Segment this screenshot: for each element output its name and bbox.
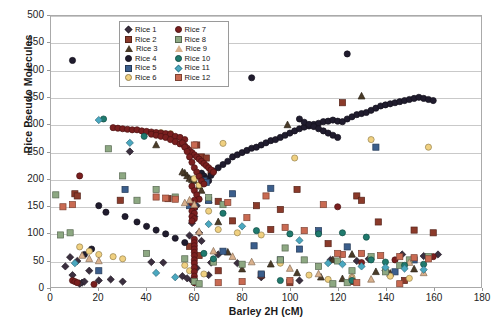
data-point (122, 186, 128, 192)
data-point (215, 280, 221, 286)
scatter-chart: Rice Pseudo Molecules 050100150200250300… (0, 0, 502, 327)
legend-label: Rice 7 (185, 26, 207, 34)
data-point (120, 256, 126, 262)
legend-item-rice-9[interactable]: Rice 9 (175, 45, 225, 53)
data-point (425, 256, 431, 262)
data-point (119, 278, 126, 285)
legend-marker-square-icon (175, 74, 182, 81)
data-point (315, 263, 321, 269)
data-point (96, 268, 102, 274)
data-point (60, 204, 66, 210)
legend-item-rice-11[interactable]: Rice 11 (175, 64, 225, 72)
data-point (330, 281, 336, 287)
x-tick-mark (434, 288, 435, 291)
legend-item-rice-3[interactable]: Rice 3 (125, 45, 175, 53)
data-point (306, 272, 312, 278)
data-point (320, 202, 326, 208)
x-tick-label: 60 (174, 292, 214, 303)
legend-row: Rice 5Rice 11 (125, 63, 224, 73)
data-point (358, 92, 365, 99)
legend-row: Rice 4Rice 10 (125, 54, 224, 64)
data-point (182, 262, 188, 268)
data-point (411, 255, 417, 261)
legend-label: Rice 3 (136, 45, 158, 53)
data-point (225, 199, 231, 205)
x-tick-label: 40 (126, 292, 166, 303)
data-point (294, 269, 301, 276)
data-point (430, 97, 436, 103)
data-point (372, 268, 379, 275)
x-tick-mark (50, 288, 51, 291)
legend-label: Rice 9 (186, 45, 208, 53)
legend-item-rice-10[interactable]: Rice 10 (175, 55, 225, 63)
data-point (153, 194, 159, 200)
legend-item-rice-5[interactable]: Rice 5 (125, 64, 175, 72)
data-point (397, 254, 403, 260)
data-point (378, 252, 384, 258)
x-tick-mark (146, 288, 147, 291)
data-point (253, 228, 259, 234)
data-point (234, 230, 240, 236)
legend-label: Rice 11 (185, 64, 210, 72)
data-point (120, 173, 126, 179)
legend-label: Rice 6 (135, 74, 157, 82)
data-point (143, 250, 149, 256)
y-tick-label: 300 (2, 119, 44, 129)
data-point (375, 219, 381, 225)
legend-item-rice-8[interactable]: Rice 8 (175, 36, 225, 44)
data-point (95, 257, 102, 264)
data-point (103, 209, 109, 215)
data-point (344, 51, 350, 57)
legend-marker-circle-icon (175, 55, 182, 62)
x-tick-label: 0 (30, 292, 70, 303)
x-tick-label: 180 (462, 292, 502, 303)
y-tick-label: 500 (2, 10, 44, 20)
legend-marker-triangle-icon (175, 45, 183, 52)
legend-item-rice-2[interactable]: Rice 2 (125, 36, 175, 44)
legend-item-rice-1[interactable]: Rice 1 (125, 26, 175, 34)
data-point (239, 261, 245, 267)
data-point (69, 202, 75, 208)
data-point (296, 246, 302, 252)
series-rice-8 (53, 146, 432, 287)
x-tick-label: 100 (270, 292, 310, 303)
data-point (294, 186, 300, 192)
data-point (77, 244, 83, 250)
data-point (210, 256, 216, 262)
data-point (335, 134, 341, 140)
data-point (286, 265, 293, 272)
data-point (292, 155, 298, 161)
data-point (430, 230, 436, 236)
data-point (53, 192, 59, 198)
x-tick-mark (98, 288, 99, 291)
legend-item-rice-7[interactable]: Rice 7 (175, 26, 225, 34)
legend-label: Rice 12 (185, 74, 211, 82)
data-point (267, 260, 274, 267)
data-point (253, 203, 259, 209)
legend-marker-circle-icon (125, 55, 132, 62)
x-tick-mark (194, 288, 195, 291)
data-point (249, 75, 255, 81)
y-tick-label: 200 (2, 174, 44, 184)
data-point (191, 142, 197, 148)
data-point (143, 223, 149, 229)
data-point (126, 139, 133, 146)
data-point (397, 281, 403, 287)
data-point (363, 234, 369, 240)
data-point (105, 146, 111, 152)
x-tick-label: 80 (222, 292, 262, 303)
legend-item-rice-6[interactable]: Rice 6 (125, 74, 175, 82)
y-tick-label: 150 (2, 201, 44, 211)
legend-item-rice-12[interactable]: Rice 12 (175, 74, 225, 82)
data-point (229, 218, 235, 224)
data-point (215, 268, 221, 274)
data-point (263, 193, 269, 199)
data-point (315, 231, 321, 237)
x-tick-label: 120 (318, 292, 358, 303)
data-point (201, 271, 207, 277)
data-point (206, 194, 212, 200)
data-point (86, 248, 92, 254)
data-point (335, 204, 341, 210)
legend-item-rice-4[interactable]: Rice 4 (125, 55, 175, 63)
data-point (172, 274, 179, 281)
